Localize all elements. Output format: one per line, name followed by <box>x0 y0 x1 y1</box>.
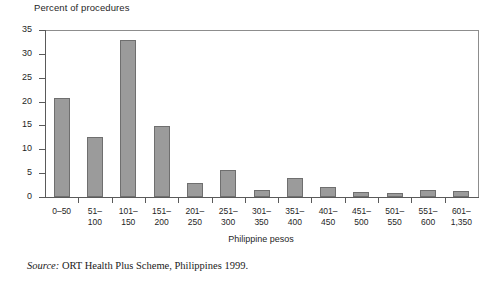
y-axis-tick-label: 15 <box>6 120 32 129</box>
y-axis-tick <box>39 30 46 31</box>
x-axis-tick <box>112 197 113 203</box>
x-axis-title: Philippine pesos <box>0 234 504 244</box>
bar <box>320 187 336 197</box>
y-axis-tick <box>39 125 46 126</box>
y-axis-tick-label: 20 <box>6 97 32 106</box>
x-axis-tick <box>178 197 179 203</box>
y-axis-tick-label: 25 <box>6 73 32 82</box>
x-axis-category-label: 301– 350 <box>245 206 278 227</box>
y-axis-tick-label: 30 <box>6 49 32 58</box>
x-axis-category-label: 551– 600 <box>411 206 444 227</box>
source-label: Source: <box>27 260 59 271</box>
y-axis-tick-label: 0 <box>6 192 32 201</box>
x-axis-category-label: 451– 500 <box>345 206 378 227</box>
x-axis-tick <box>78 197 79 203</box>
x-axis-line <box>45 197 479 198</box>
y-axis-tick <box>39 149 46 150</box>
y-axis-tick <box>39 173 46 174</box>
x-axis-title-text: Philippine pesos <box>228 234 294 244</box>
y-axis-tick <box>39 197 46 198</box>
x-axis-tick <box>445 197 446 203</box>
bar <box>154 126 170 197</box>
x-axis-tick <box>245 197 246 203</box>
figure-container: Percent of procedures 05101520253035 0–5… <box>0 0 504 288</box>
x-axis-category-label: 251– 300 <box>212 206 245 227</box>
y-axis-tick <box>39 102 46 103</box>
x-axis-tick <box>411 197 412 203</box>
bar <box>87 137 103 197</box>
x-axis-category-label: 401– 450 <box>311 206 344 227</box>
source-note: Source: ORT Health Plus Scheme, Philippi… <box>27 260 248 271</box>
x-axis-category-label: 201– 250 <box>178 206 211 227</box>
bar <box>254 190 270 197</box>
x-axis-category-label: 501– 550 <box>378 206 411 227</box>
x-axis-tick <box>378 197 379 203</box>
x-axis-category-label: 351– 400 <box>278 206 311 227</box>
x-axis-tick <box>345 197 346 203</box>
x-axis-category-label: 101– 150 <box>112 206 145 227</box>
bar <box>220 170 236 197</box>
x-axis-category-label: 151– 200 <box>145 206 178 227</box>
plot-right-border <box>478 30 479 198</box>
bar <box>420 190 436 197</box>
bar <box>387 193 403 197</box>
bar <box>453 191 469 197</box>
y-axis-tick-label: 35 <box>6 25 32 34</box>
x-axis-category-label: 0–50 <box>45 206 78 217</box>
bar <box>353 192 369 197</box>
source-text: ORT Health Plus Scheme, Philippines 1999… <box>59 260 248 271</box>
bar <box>287 178 303 197</box>
bar <box>120 40 136 197</box>
y-axis-tick <box>39 54 46 55</box>
bar <box>187 183 203 197</box>
y-axis-tick-label: 10 <box>6 144 32 153</box>
y-axis-tick <box>39 78 46 79</box>
x-axis-tick <box>278 197 279 203</box>
bar <box>54 98 70 197</box>
chart-title: Percent of procedures <box>34 2 130 13</box>
x-axis-category-label: 601– 1,350 <box>445 206 478 227</box>
x-axis-tick <box>212 197 213 203</box>
y-axis-tick-label: 5 <box>6 168 32 177</box>
x-axis-category-label: 51– 100 <box>78 206 111 227</box>
plot-top-border <box>45 30 479 31</box>
x-axis-tick <box>145 197 146 203</box>
x-axis-tick <box>311 197 312 203</box>
